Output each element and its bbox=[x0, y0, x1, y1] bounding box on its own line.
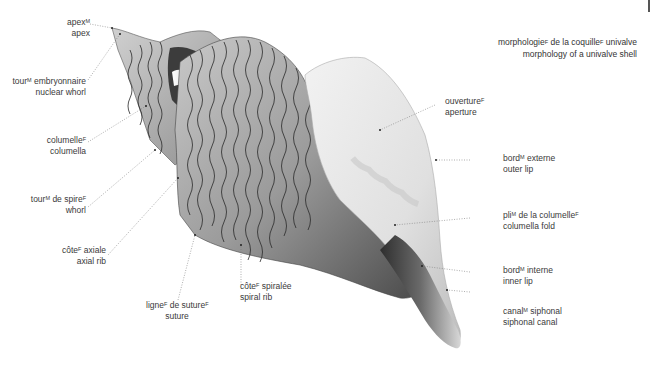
label-outer-lip: bordM externe outer lip bbox=[503, 153, 555, 175]
label-columella: columelleF columella bbox=[47, 135, 86, 157]
label-spiral-rib: côteF spiralée spiral rib bbox=[240, 281, 292, 303]
label-suture: ligneF de sutureF suture bbox=[146, 300, 208, 322]
page-corner-mark bbox=[648, 0, 650, 12]
title-english: morphology of a univalve shell bbox=[498, 48, 637, 60]
diagram-title: morphologieF de la coquilleF univalve mo… bbox=[498, 36, 637, 60]
label-nuclear-whorl: tourM embryonnaire nuclear whorl bbox=[12, 76, 86, 98]
title-french: morphologieF de la coquilleF univalve bbox=[498, 36, 637, 48]
label-axial-rib: côteF axiale axial rib bbox=[62, 245, 106, 267]
label-aperture: ouvertureF aperture bbox=[445, 96, 484, 118]
label-whorl: tourM de spireF whorl bbox=[31, 194, 86, 216]
label-columella-fold: pliM de la columelleF columella fold bbox=[503, 210, 579, 232]
label-apex: apexM apex bbox=[67, 17, 90, 39]
label-inner-lip: bordM interne inner lip bbox=[503, 265, 553, 287]
label-siphonal-canal: canalM siphonal siphonal canal bbox=[503, 306, 562, 328]
